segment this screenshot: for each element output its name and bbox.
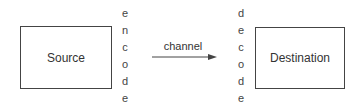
destination-label: Destination xyxy=(270,51,330,65)
decode-letter: d xyxy=(235,73,247,90)
source-box: Source xyxy=(20,26,112,89)
destination-box: Destination xyxy=(255,27,345,89)
encode-letter: c xyxy=(119,39,131,56)
decode-letter: e xyxy=(235,90,247,107)
encode-letter: n xyxy=(119,22,131,39)
decode-letter: c xyxy=(235,39,247,56)
decode-letter: e xyxy=(235,22,247,39)
encode-letter: e xyxy=(119,90,131,107)
encode-letter: d xyxy=(119,73,131,90)
decode-label: d e c o d e xyxy=(235,5,247,107)
channel-label: channel xyxy=(155,40,211,52)
encode-letter: o xyxy=(119,56,131,73)
encode-label: e n c o d e xyxy=(119,5,131,107)
channel-arrow-icon xyxy=(152,52,218,62)
decode-letter: o xyxy=(235,56,247,73)
decode-letter: d xyxy=(235,5,247,22)
encode-letter: e xyxy=(119,5,131,22)
source-label: Source xyxy=(47,51,85,65)
